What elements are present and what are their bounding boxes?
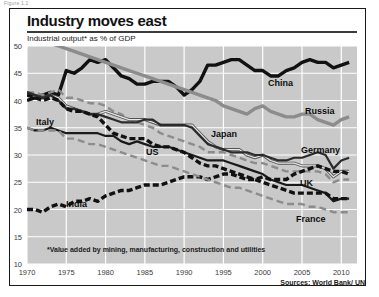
y-axis-tick: 50 (6, 42, 22, 51)
series-line-china (27, 60, 349, 101)
series-line-germany (27, 92, 349, 168)
series-label-india: India (66, 199, 87, 209)
series-label-japan: Japan (211, 129, 237, 139)
x-axis-tick: 2005 (287, 268, 317, 277)
x-axis-tick: 1990 (169, 268, 199, 277)
series-label-germany: Germany (301, 145, 340, 155)
series-label-uk: UK (300, 178, 313, 188)
footnote: *Value added by mining, manufacturing, c… (47, 246, 265, 253)
sources-note: Sources: World Bank/ UN (280, 279, 365, 286)
y-axis-tick: 30 (6, 151, 22, 160)
y-axis-tick: 40 (6, 97, 22, 106)
y-axis-tick: 25 (6, 178, 22, 187)
page-title: Industry moves east (27, 12, 166, 29)
series-line-italy (27, 90, 349, 183)
y-axis-tick: 35 (6, 124, 22, 133)
series-label-russia: Russia (305, 106, 335, 116)
chart-figure: Figure 1.1 Industry moves east Industria… (0, 0, 379, 297)
series-label-us: US (146, 147, 159, 157)
y-axis-tick: 45 (6, 69, 22, 78)
x-axis-tick: 1985 (130, 268, 160, 277)
chart-subtitle: Industrial output* as % of GDP (27, 34, 136, 43)
series-line-japan (27, 92, 349, 176)
x-axis-tick: 2010 (326, 268, 356, 277)
series-label-italy: Italy (36, 117, 54, 127)
x-axis-tick: 2000 (248, 268, 278, 277)
title-divider (27, 31, 357, 33)
series-label-france: France (296, 214, 326, 224)
series-label-china: China (268, 78, 293, 88)
plot-area (27, 46, 357, 264)
x-axis-tick: 1975 (51, 268, 81, 277)
y-axis-tick: 15 (6, 233, 22, 242)
x-axis-tick: 1980 (91, 268, 121, 277)
y-axis-tick: 20 (6, 206, 22, 215)
x-axis-tick: 1995 (208, 268, 238, 277)
chart-canvas (27, 46, 357, 264)
x-axis-tick: 1970 (12, 268, 42, 277)
figure-caption: Figure 1.1 (4, 0, 29, 6)
series-line-russia (27, 46, 349, 125)
